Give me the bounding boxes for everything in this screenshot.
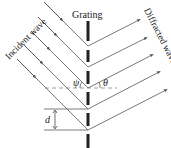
diffraction-grating-diagram: Grating Incident wave Diffracted wave ψ … (0, 0, 171, 148)
diffracted-rays (88, 20, 166, 130)
psi-angle-arc (80, 82, 82, 88)
incident-rays (17, 2, 88, 130)
incident-wave-label: Incident wave (3, 16, 48, 61)
grating-label: Grating (72, 9, 103, 20)
theta-label: θ (103, 77, 108, 88)
theta-angle-arc (99, 82, 100, 88)
diffracted-wave-label: Diffracted wave (142, 6, 171, 65)
psi-label: ψ (73, 77, 80, 88)
d-label: d (45, 114, 51, 125)
